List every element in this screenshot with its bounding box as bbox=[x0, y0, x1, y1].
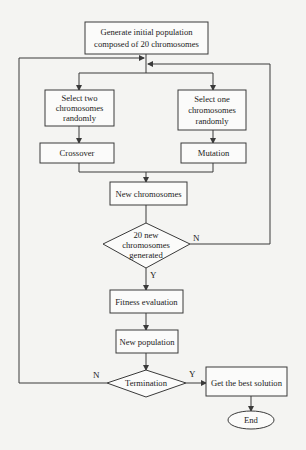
svg-text:generated: generated bbox=[129, 250, 163, 260]
node-crossover: Crossover bbox=[40, 143, 114, 163]
node-decision-generated: 20 new chromosomes generated bbox=[103, 223, 190, 268]
node-end: End bbox=[228, 411, 274, 429]
svg-text:End: End bbox=[244, 415, 259, 425]
svg-text:chromosomes: chromosomes bbox=[56, 103, 104, 113]
node-init: Generate initial population composed of … bbox=[85, 22, 208, 54]
node-best-solution: Get the best solution bbox=[206, 367, 287, 396]
svg-text:Mutation: Mutation bbox=[198, 148, 230, 158]
node-new-population: New population bbox=[116, 330, 178, 353]
edge-merge bbox=[79, 163, 213, 172]
node-fitness-evaluation: Fitness evaluation bbox=[110, 290, 183, 313]
node-select-two: Select two chromosomes randomly bbox=[45, 90, 114, 126]
svg-text:20 new: 20 new bbox=[133, 230, 159, 240]
svg-text:Select one: Select one bbox=[194, 94, 230, 104]
svg-text:Generate initial population: Generate initial population bbox=[100, 27, 193, 37]
node-select-one: Select one chromosomes randomly bbox=[178, 90, 246, 130]
svg-text:composed of 20 chromosomes: composed of 20 chromosomes bbox=[94, 39, 199, 49]
svg-text:randomly: randomly bbox=[196, 116, 230, 126]
svg-text:chromosomes: chromosomes bbox=[188, 105, 236, 115]
svg-text:Select two: Select two bbox=[61, 93, 97, 103]
flowchart: Generate initial population composed of … bbox=[0, 0, 306, 450]
svg-text:chromosomes: chromosomes bbox=[122, 240, 170, 250]
svg-text:New chromosomes: New chromosomes bbox=[115, 189, 182, 199]
node-new-chromosomes: New chromosomes bbox=[110, 182, 187, 205]
label-termination-no: N bbox=[93, 370, 100, 380]
svg-text:New population: New population bbox=[119, 337, 175, 347]
label-generated-no: N bbox=[193, 233, 200, 243]
svg-text:Fitness evaluation: Fitness evaluation bbox=[115, 297, 178, 307]
label-generated-yes: Y bbox=[150, 270, 157, 280]
svg-text:Termination: Termination bbox=[125, 378, 168, 388]
svg-text:Crossover: Crossover bbox=[60, 148, 95, 158]
node-mutation: Mutation bbox=[181, 143, 246, 163]
svg-text:Get the best solution: Get the best solution bbox=[211, 378, 283, 388]
label-termination-yes: Y bbox=[189, 369, 196, 379]
svg-text:randomly: randomly bbox=[63, 113, 97, 123]
node-termination: Termination bbox=[107, 370, 186, 397]
